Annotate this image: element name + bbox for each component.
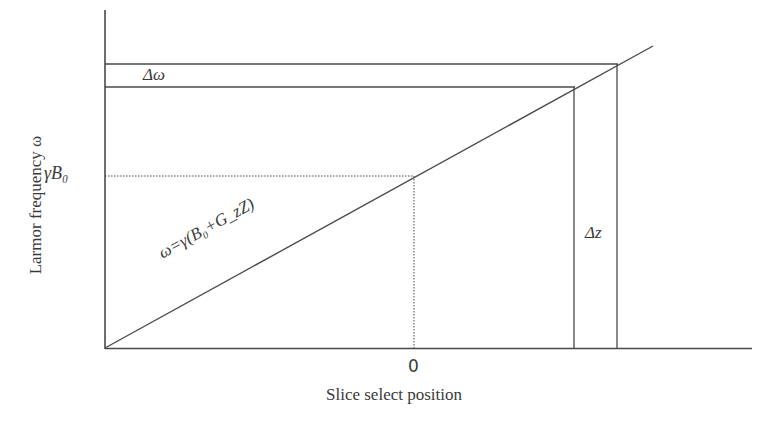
- frequency-line: [105, 46, 653, 348]
- y-axis-label: Larmor frequency ω: [26, 136, 46, 275]
- b0-tick-label: γB₀: [44, 163, 68, 184]
- delta-omega-label: Δω: [143, 65, 165, 85]
- diagram-canvas: [0, 0, 778, 429]
- x-axis-label: Slice select position: [326, 385, 462, 405]
- delta-z-label: Δz: [585, 223, 602, 243]
- x-tick-zero: 0: [408, 356, 419, 376]
